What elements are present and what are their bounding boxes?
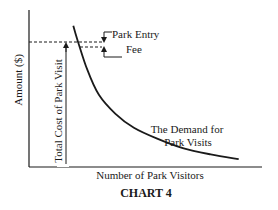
- total-cost-label: Total Cost of Park Visit: [52, 59, 64, 162]
- chart-title: CHART 4: [120, 186, 172, 200]
- demand-curve: [73, 26, 238, 160]
- curve-label-line2: Park Visits: [164, 136, 212, 148]
- x-axis-label: Number of Park Visitors: [96, 169, 204, 181]
- curve-label-line1: The Demand for: [151, 123, 224, 135]
- fee-label-line1: Park Entry: [112, 28, 160, 40]
- y-axis-label: Amount ($): [12, 54, 25, 106]
- chart-4: Park Entry Fee Total Cost of Park Visit …: [0, 0, 278, 210]
- fee-label-line2: Fee: [126, 43, 142, 55]
